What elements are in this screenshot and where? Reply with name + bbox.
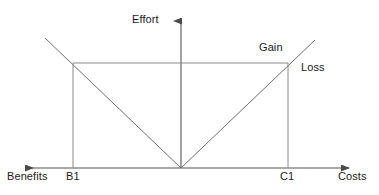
tick-label-b1: B1 bbox=[66, 170, 80, 182]
y-axis-label-effort: Effort bbox=[132, 13, 159, 25]
diagram-svg bbox=[0, 0, 379, 195]
region-label-gain: Gain bbox=[259, 41, 283, 53]
benefits-effort-line bbox=[45, 38, 181, 168]
costs-effort-line bbox=[181, 40, 315, 168]
x-axis-label-benefits: Benefits bbox=[7, 170, 48, 182]
x-axis-label-costs: Costs bbox=[338, 170, 367, 182]
diagram-canvas: Effort Gain Loss Benefits B1 C1 Costs bbox=[0, 0, 379, 195]
tick-label-c1: C1 bbox=[280, 170, 294, 182]
region-label-loss: Loss bbox=[301, 61, 325, 73]
